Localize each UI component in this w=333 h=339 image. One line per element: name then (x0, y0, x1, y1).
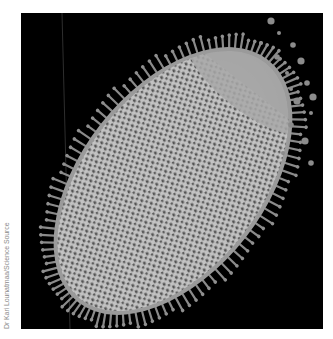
photo-credit: Dr Kari Lounatmaa/Science Source (3, 222, 10, 329)
bacterium-illustration (21, 13, 323, 329)
micrograph-image (21, 13, 323, 329)
